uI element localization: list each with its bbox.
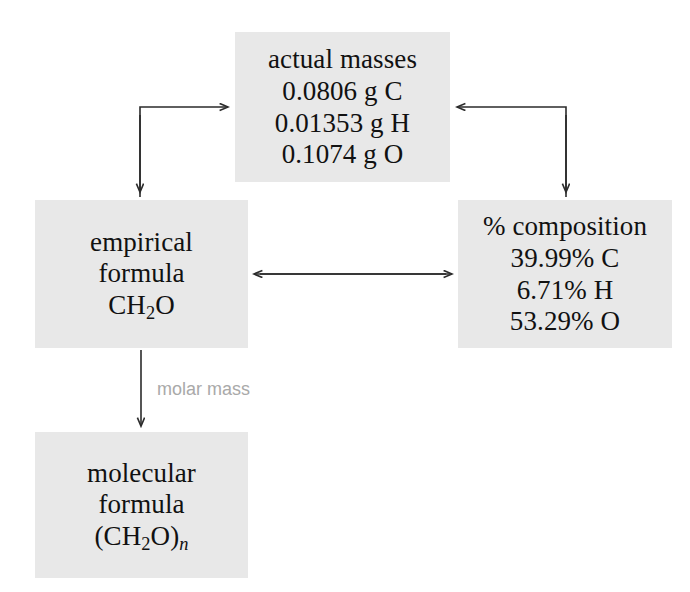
empirical-formula-suffix: O bbox=[155, 290, 175, 320]
composition-value-hydrogen: 6.71% H bbox=[517, 275, 614, 306]
composition-value-oxygen: 53.29% O bbox=[510, 306, 620, 337]
node-empirical-formula: empirical formula CH2O bbox=[35, 200, 248, 348]
empirical-heading-line1: empirical bbox=[90, 227, 193, 258]
empirical-formula-prefix: CH bbox=[108, 290, 146, 320]
molecular-formula-mid: O) bbox=[151, 521, 180, 551]
actual-masses-value-oxygen: 0.1074 g O bbox=[282, 139, 404, 170]
composition-value-carbon: 39.99% C bbox=[511, 243, 620, 274]
molecular-heading-line1: molecular bbox=[87, 458, 196, 489]
molecular-formula-subscript-n: n bbox=[179, 533, 188, 553]
edge-masses-to-composition bbox=[457, 107, 566, 197]
molecular-formula-prefix: (CH bbox=[94, 521, 141, 551]
molecular-heading-line2: formula bbox=[98, 489, 184, 520]
edge-masses-to-empirical bbox=[140, 107, 228, 197]
actual-masses-heading: actual masses bbox=[268, 44, 417, 75]
node-actual-masses: actual masses 0.0806 g C 0.01353 g H 0.1… bbox=[235, 32, 450, 182]
edge-label-molar-mass: molar mass bbox=[157, 379, 250, 400]
node-percent-composition: % composition 39.99% C 6.71% H 53.29% O bbox=[458, 200, 672, 348]
empirical-formula-text: CH2O bbox=[108, 290, 175, 321]
empirical-heading-line2: formula bbox=[98, 258, 184, 289]
molecular-formula-text: (CH2O)n bbox=[94, 521, 188, 552]
actual-masses-value-carbon: 0.0806 g C bbox=[282, 76, 402, 107]
node-molecular-formula: molecular formula (CH2O)n bbox=[35, 432, 248, 578]
diagram-canvas: actual masses 0.0806 g C 0.01353 g H 0.1… bbox=[0, 0, 690, 592]
molecular-formula-subscript: 2 bbox=[141, 533, 150, 553]
composition-heading: % composition bbox=[483, 211, 647, 242]
empirical-formula-subscript: 2 bbox=[146, 302, 155, 322]
actual-masses-value-hydrogen: 0.01353 g H bbox=[275, 108, 410, 139]
